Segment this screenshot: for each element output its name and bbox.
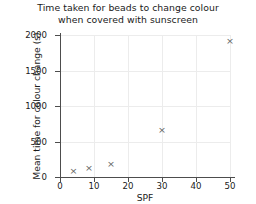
gridline-horizontal (60, 142, 230, 143)
y-axis-tick-label: 1500 (0, 66, 54, 76)
x-axis-tick-label: 30 (157, 181, 168, 191)
data-point-marker: × (83, 162, 94, 173)
data-point-marker: × (157, 124, 168, 135)
y-axis-tick-label: 0 (0, 172, 54, 182)
x-axis-tick-label: 20 (123, 181, 134, 191)
gridline-horizontal (60, 106, 230, 107)
gridline-vertical (94, 35, 95, 177)
gridline-vertical (196, 35, 197, 177)
gridline-vertical (128, 35, 129, 177)
y-axis-tick-label: 1000 (0, 101, 54, 111)
chart-title-line-1: Time taken for beads to change colour (0, 2, 256, 14)
y-axis-tick (55, 35, 60, 36)
gridline-horizontal (60, 35, 230, 36)
scatter-chart: Time taken for beads to change colour wh… (0, 0, 256, 204)
gridline-vertical (162, 35, 163, 177)
y-axis-tick (55, 71, 60, 72)
y-axis-line (60, 33, 61, 179)
x-axis-tick-label: 0 (57, 181, 62, 191)
x-axis-title: SPF (60, 192, 230, 203)
gridline-horizontal (60, 71, 230, 72)
x-axis-tick-label: 40 (191, 181, 202, 191)
chart-title-line-2: when covered with sunscreen (0, 14, 256, 26)
gridline-vertical (230, 35, 231, 177)
data-point-marker: × (106, 158, 117, 169)
x-axis-line (59, 177, 235, 178)
data-point-marker: × (68, 165, 79, 176)
chart-title: Time taken for beads to change colour wh… (0, 2, 256, 25)
plot-area (60, 35, 230, 177)
data-point-marker: × (225, 35, 236, 46)
y-axis-tick (55, 106, 60, 107)
x-axis-tick-label: 10 (89, 181, 100, 191)
y-axis-tick (55, 142, 60, 143)
y-axis-tick-label: 500 (0, 137, 54, 147)
x-axis-tick-label: 50 (225, 181, 236, 191)
y-axis-tick-label: 2000 (0, 30, 54, 40)
